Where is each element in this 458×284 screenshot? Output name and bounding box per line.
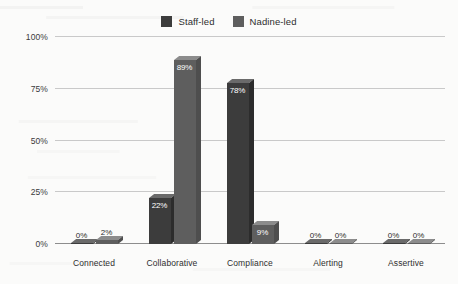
bar[interactable]: 78%	[227, 83, 249, 244]
bar-front-face	[71, 243, 93, 244]
bar-front-face	[96, 240, 118, 244]
x-axis-tick-label: Collaborative	[147, 258, 198, 268]
legend-label: Staff-led	[178, 16, 214, 27]
bar[interactable]: 22%	[149, 198, 171, 244]
y-axis-tick-label: 100%	[26, 32, 48, 42]
x-axis-tick-label: Compliance	[227, 258, 273, 268]
bar[interactable]: 0%	[330, 243, 352, 244]
bar-front-face	[174, 60, 196, 244]
y-axis: 0%25%50%75%100%	[0, 37, 48, 244]
bar-front-face	[149, 198, 171, 244]
y-axis-tick-label: 75%	[31, 84, 48, 94]
x-axis-tick-label: Connected	[73, 258, 115, 268]
legend-label: Nadine-led	[250, 16, 297, 27]
bar-side-face	[196, 56, 201, 244]
legend-entry-nadine-led[interactable]: Nadine-led	[233, 16, 297, 27]
bar[interactable]: 0%	[383, 243, 405, 244]
legend-swatch-icon	[161, 16, 172, 27]
x-axis-tick-label: Alerting	[313, 258, 343, 268]
bar-front-face	[305, 243, 327, 244]
bar[interactable]: 89%	[174, 60, 196, 244]
x-axis-tick-label: Assertive	[388, 258, 424, 268]
bars-layer: 0%2%22%89%78%9%0%0%0%0%	[55, 37, 445, 244]
bar-front-face	[330, 243, 352, 244]
y-axis-tick-label: 25%	[31, 187, 48, 197]
bar-side-face	[249, 79, 254, 244]
bar-front-face	[252, 225, 274, 244]
bar-front-face	[408, 243, 430, 244]
bar[interactable]: 0%	[408, 243, 430, 244]
bar-side-face	[274, 221, 279, 244]
bar[interactable]: 2%	[96, 240, 118, 244]
y-axis-tick-label: 50%	[31, 136, 48, 146]
bar-front-face	[383, 243, 405, 244]
chart-legend: Staff-ledNadine-led	[0, 14, 458, 28]
legend-entry-staff-led[interactable]: Staff-led	[161, 16, 214, 27]
x-axis: ConnectedCollaborativeComplianceAlerting…	[55, 258, 445, 272]
bar-front-face	[227, 83, 249, 244]
bar[interactable]: 9%	[252, 225, 274, 244]
y-axis-tick-label: 0%	[36, 239, 49, 249]
legend-swatch-icon	[233, 16, 244, 27]
bar[interactable]: 0%	[305, 243, 327, 244]
bar[interactable]: 0%	[71, 243, 93, 244]
